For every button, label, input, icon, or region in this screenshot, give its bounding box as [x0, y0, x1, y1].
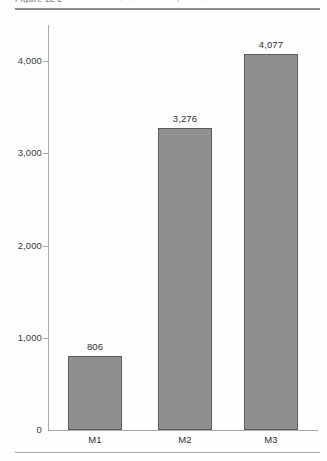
y-axis-tick-mark — [43, 61, 49, 62]
y-axis-tick-label: 0 — [0, 425, 49, 435]
y-axis-tick: 3,000 — [0, 153, 49, 154]
figure-page: Figure 12-2 M1, M2, and M3 Components, 2… — [0, 0, 327, 461]
y-axis-tick: 2,000 — [0, 246, 49, 247]
bar — [68, 356, 122, 430]
bar — [244, 54, 298, 430]
x-axis-category-label: M1 — [65, 435, 125, 445]
y-axis-tick-mark — [43, 246, 49, 247]
x-axis-line — [48, 430, 318, 431]
bar — [158, 128, 212, 430]
x-axis-category-label: M3 — [241, 435, 301, 445]
bar-value-label: 806 — [65, 342, 125, 352]
y-axis-tick: 1,000 — [0, 338, 49, 339]
y-axis-line — [48, 25, 49, 431]
y-axis-tick-label: 4,000 — [0, 56, 49, 66]
bar-chart-plot: 01,0002,0003,0004,000 8063,2764,077 M1M2… — [0, 0, 327, 461]
y-axis-tick: 4,000 — [0, 61, 49, 62]
y-axis-tick-mark — [43, 338, 49, 339]
y-axis-tick-mark — [43, 153, 49, 154]
y-axis-tick-label: 3,000 — [0, 148, 49, 158]
y-axis-tick-label: 1,000 — [0, 333, 49, 343]
y-axis-tick: 0 — [0, 430, 49, 431]
bar-value-label: 4,077 — [241, 40, 301, 50]
bar-value-label: 3,276 — [155, 114, 215, 124]
y-axis-tick-label: 2,000 — [0, 241, 49, 251]
x-axis-category-label: M2 — [155, 435, 215, 445]
